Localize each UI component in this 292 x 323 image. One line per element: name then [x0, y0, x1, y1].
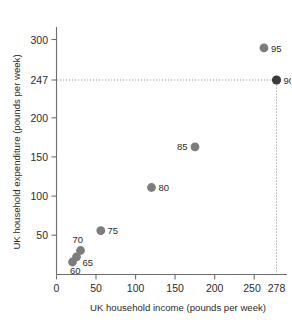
x-tick-label-0: 0 [54, 282, 60, 294]
y-tick-label-100: 100 [30, 190, 48, 202]
y-tick-label-200: 200 [30, 112, 48, 124]
x-tick-label-150: 150 [166, 282, 184, 294]
data-label-65: 65 [83, 257, 94, 268]
x-tick-label-278: 278 [268, 282, 286, 294]
data-label-75: 75 [108, 225, 119, 236]
y-tick-label-300: 300 [30, 34, 48, 46]
data-point-95[interactable] [260, 44, 269, 53]
y-tick-label-50: 50 [36, 229, 48, 241]
y-tick-label-247: 247 [30, 74, 48, 86]
data-label-80: 80 [159, 182, 170, 193]
data-label-95: 95 [271, 43, 282, 54]
x-tick-label-250: 250 [243, 282, 261, 294]
x-tick-label-200: 200 [206, 282, 224, 294]
y-axis-title: UK household expenditure (pounds per wee… [11, 54, 22, 249]
data-point-85[interactable] [191, 142, 200, 151]
y-tick-label-150: 150 [30, 151, 48, 163]
data-point-75[interactable] [96, 226, 105, 235]
scatter-plot-figure: 300 247 200 150 100 50 0 50 100 150 200 … [0, 0, 291, 323]
x-axis-title: UK household income (pounds per week) [90, 302, 266, 313]
x-tick-label-50: 50 [90, 282, 102, 294]
data-label-90: 90 [284, 75, 292, 86]
data-point-80[interactable] [147, 183, 156, 192]
data-point-70[interactable] [76, 246, 85, 255]
chart-canvas: 300 247 200 150 100 50 0 50 100 150 200 … [0, 0, 291, 323]
x-tick-label-100: 100 [127, 282, 145, 294]
data-label-70: 70 [73, 234, 84, 245]
data-label-85: 85 [177, 141, 188, 152]
data-label-60: 60 [70, 265, 81, 276]
data-point-90[interactable] [272, 75, 281, 84]
